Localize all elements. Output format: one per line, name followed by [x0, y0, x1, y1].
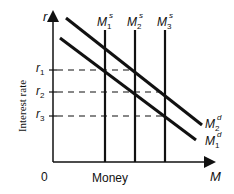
demand-label-2: M2d [205, 118, 219, 130]
demand-curve-1 [60, 38, 196, 140]
supply-label-3: M3s [157, 16, 171, 28]
supply-label-1: M1s [97, 16, 111, 28]
demand-label-1: M1d [205, 135, 219, 147]
y-axis-symbol: r [43, 10, 47, 23]
rate-label-r3: r3 [36, 108, 44, 120]
origin-label: 0 [41, 171, 48, 183]
x-axis-label: Money [92, 172, 128, 184]
rate-label-r1: r1 [36, 62, 44, 74]
rate-label-r2: r2 [36, 85, 44, 97]
y-axis-label: Interest rate [16, 66, 28, 146]
x-axis-symbol: M [210, 170, 221, 183]
supply-label-2: M2s [127, 16, 141, 28]
